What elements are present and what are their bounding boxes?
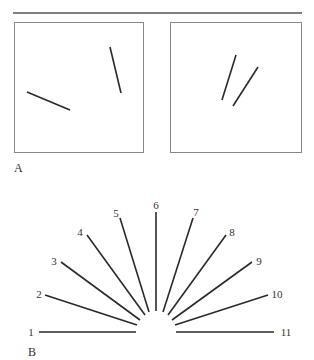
fan-line-label: 10: [272, 288, 284, 300]
panel-b-label: B: [28, 345, 36, 359]
line-orientation-figure: A 1234567891011 B: [0, 0, 314, 360]
response-line-6: 6: [153, 199, 159, 311]
fan-line: [168, 235, 226, 315]
fan-line: [120, 218, 149, 312]
panel-a-stimuli: [15, 23, 302, 153]
fan-line-label: 2: [36, 288, 42, 300]
fan-line-label: 6: [153, 199, 159, 211]
stimulus-frame: [15, 23, 144, 153]
fan-line-label: 5: [113, 207, 119, 219]
panel-a-label: A: [14, 161, 23, 175]
right-stimulus-box: [171, 23, 302, 153]
fan-line-label: 7: [193, 206, 199, 218]
response-line-3: 3: [51, 255, 140, 320]
panel-b-response-fan: 1234567891011: [28, 199, 291, 338]
fan-line-label: 3: [51, 255, 57, 267]
stimulus-frame: [171, 23, 302, 153]
fan-line-label: 4: [77, 226, 83, 238]
left-stimulus-box: [15, 23, 144, 153]
response-line-11: 11: [176, 326, 291, 338]
response-line-8: 8: [168, 226, 235, 315]
fan-line: [172, 262, 252, 320]
fan-line-label: 8: [229, 226, 235, 238]
fan-line-label: 1: [28, 326, 34, 338]
fan-line-label: 9: [256, 255, 262, 267]
response-line-9: 9: [172, 255, 262, 320]
response-line-1: 1: [28, 326, 136, 338]
fan-line: [163, 218, 193, 312]
fan-line-label: 11: [281, 326, 292, 338]
fan-line: [45, 295, 137, 325]
response-line-4: 4: [77, 226, 145, 315]
fan-line: [175, 295, 268, 325]
